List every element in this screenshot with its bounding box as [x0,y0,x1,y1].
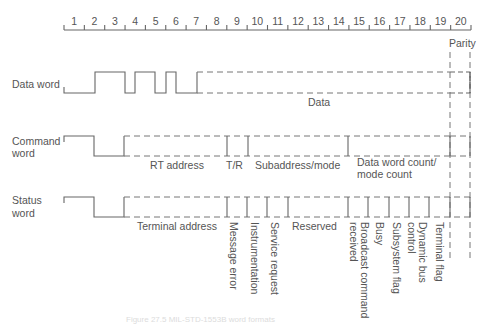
parity-column: Parity [449,37,477,262]
bit-number-label: 7 [193,15,199,27]
word-format-diagram: 1234567891011121314151617181920 Parity D… [0,0,486,329]
broadcast-received-label-1: Broadcast command [359,222,371,318]
bit-number-label: 6 [173,15,179,27]
parity-label: Parity [449,37,477,49]
bit-number-label: 19 [435,15,447,27]
word-count-label-2: mode count [357,168,412,180]
command-word-sync-waveform [64,136,124,156]
broadcast-received-label-2: received [348,222,360,262]
bit-number-label: 12 [292,15,304,27]
tr-label: T/R [226,159,243,171]
status-word-sync-waveform [64,197,124,217]
data-word-row: Data word Data [12,72,470,108]
bit-number-label: 14 [333,15,345,27]
command-word-label-1: Command [12,135,61,147]
subsystem-flag-label: Subsystem flag [391,222,403,294]
terminal-address-label: Terminal address [137,220,217,232]
service-request-label: Service request [269,222,281,295]
instrumentation-label: Instrumentation [249,222,261,295]
bit-number-label: 4 [132,15,138,27]
bit-number-label: 1 [71,15,77,27]
rt-address-label: RT address [150,159,204,171]
data-word-label: Data word [12,78,60,90]
bit-number-label: 8 [214,15,220,27]
status-word-label-2: word [11,207,35,219]
bit-ruler: 1234567891011121314151617181920 [64,15,471,30]
dynamic-bus-control-label-2: control [406,222,418,254]
bit-number-label: 9 [234,15,240,27]
bit-number-label: 10 [251,15,263,27]
status-word-row: Status word Terminal address Reserved Me… [11,194,470,318]
dynamic-bus-control-label-1: Dynamic bus [417,222,429,283]
data-field-label: Data [308,96,330,108]
bit-number-label: 20 [455,15,467,27]
command-word-row: Command word RT address T/R Subaddress/m… [11,135,470,180]
data-word-sync-waveform [64,72,197,93]
terminal-flag-label: Terminal flag [434,222,446,282]
figure-caption: Figure 27.5 MIL-STD-1553B word formats [126,315,275,324]
reserved-label: Reserved [292,220,337,232]
subaddress-mode-label: Subaddress/mode [255,159,340,171]
bit-number-label: 16 [374,15,386,27]
message-error-label: Message error [228,222,240,290]
bit-number-label: 13 [313,15,325,27]
word-count-label-1: Data word count/ [357,156,436,168]
bit-number-label: 18 [414,15,426,27]
bit-number-label: 2 [92,15,98,27]
status-word-label-1: Status [12,194,42,206]
bit-number-label: 17 [394,15,406,27]
bit-number-label: 11 [272,15,283,27]
busy-label: Busy [374,222,386,246]
bit-number-label: 3 [112,15,118,27]
bit-number-label: 15 [353,15,365,27]
command-word-label-2: word [11,147,35,159]
bit-number-label: 5 [153,15,159,27]
